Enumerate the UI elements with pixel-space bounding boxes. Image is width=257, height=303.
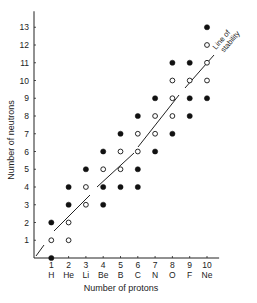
unstable-point bbox=[118, 184, 123, 189]
x-axis-label: Number of protons bbox=[84, 283, 159, 293]
stable-point bbox=[66, 238, 71, 243]
stability-annotation: Line of stability bbox=[211, 24, 242, 57]
x-tick-label: 10 bbox=[202, 260, 212, 270]
unstable-point bbox=[83, 167, 88, 172]
scatter-chart: 1H2He3Li4Be5B6C7N8O9F10Ne123456789101112… bbox=[0, 0, 257, 303]
y-tick-label: 5 bbox=[24, 164, 29, 174]
x-tick-label: 6 bbox=[135, 260, 140, 270]
y-axis-label: Number of neutrons bbox=[6, 100, 16, 180]
stable-point bbox=[153, 114, 158, 119]
y-tick-label: 10 bbox=[20, 76, 30, 86]
y-tick-label: 4 bbox=[24, 182, 29, 192]
stable-point bbox=[170, 96, 175, 101]
stable-point bbox=[49, 238, 54, 243]
x-tick-element: C bbox=[135, 270, 141, 280]
x-tick-label: 3 bbox=[84, 260, 89, 270]
unstable-point bbox=[153, 96, 158, 101]
stable-point bbox=[101, 167, 106, 172]
y-tick-label: 9 bbox=[24, 93, 29, 103]
stable-point bbox=[118, 167, 123, 172]
x-tick-element: N bbox=[152, 270, 158, 280]
unstable-point bbox=[187, 96, 192, 101]
unstable-point bbox=[204, 25, 209, 30]
y-tick-label: 13 bbox=[20, 22, 30, 32]
x-tick-element: Ne bbox=[202, 270, 213, 280]
y-tick-label: 1 bbox=[24, 235, 29, 245]
stable-point bbox=[135, 149, 140, 154]
unstable-point bbox=[135, 167, 140, 172]
unstable-point bbox=[49, 220, 54, 225]
unstable-point bbox=[170, 131, 175, 136]
y-tick-label: 6 bbox=[24, 147, 29, 157]
unstable-point bbox=[187, 60, 192, 65]
stable-point bbox=[205, 43, 210, 48]
unstable-point bbox=[49, 255, 54, 260]
unstable-point bbox=[204, 96, 209, 101]
x-tick-label: 5 bbox=[118, 260, 123, 270]
x-tick-label: 7 bbox=[153, 260, 158, 270]
unstable-point bbox=[66, 202, 71, 207]
unstable-point bbox=[135, 113, 140, 118]
stable-point bbox=[84, 185, 89, 190]
stable-point bbox=[170, 78, 175, 83]
x-tick-label: 1 bbox=[49, 260, 54, 270]
x-tick-label: 8 bbox=[170, 260, 175, 270]
x-tick-element: O bbox=[169, 270, 176, 280]
stable-point bbox=[187, 78, 192, 83]
y-tick-label: 11 bbox=[20, 58, 29, 68]
unstable-point bbox=[118, 131, 123, 136]
y-tick-label: 12 bbox=[20, 40, 30, 50]
x-tick-element: Li bbox=[83, 270, 90, 280]
x-tick-element: He bbox=[63, 270, 74, 280]
stability-line-segment bbox=[138, 95, 179, 147]
y-tick-label: 3 bbox=[24, 200, 29, 210]
x-tick-element: B bbox=[118, 270, 124, 280]
stable-point bbox=[135, 131, 140, 136]
y-tick-label: 7 bbox=[24, 129, 29, 139]
x-tick-element: F bbox=[187, 270, 192, 280]
x-tick-element: Be bbox=[98, 270, 109, 280]
x-tick-label: 9 bbox=[187, 260, 192, 270]
unstable-point bbox=[101, 184, 106, 189]
stability-line-segment bbox=[54, 195, 90, 231]
stable-point bbox=[205, 60, 210, 65]
x-tick-label: 4 bbox=[101, 260, 106, 270]
unstable-point bbox=[66, 184, 71, 189]
stable-point bbox=[66, 220, 71, 225]
line-of-stability bbox=[36, 55, 214, 256]
stable-point bbox=[205, 78, 210, 83]
unstable-point bbox=[135, 184, 140, 189]
unstable-point bbox=[101, 202, 106, 207]
stable-point bbox=[118, 149, 123, 154]
data-points bbox=[49, 25, 210, 261]
stable-point bbox=[170, 114, 175, 119]
y-tick-label: 8 bbox=[24, 111, 29, 121]
unstable-point bbox=[187, 113, 192, 118]
stable-point bbox=[84, 202, 89, 207]
unstable-point bbox=[101, 149, 106, 154]
unstable-point bbox=[153, 149, 158, 154]
x-tick-label: 2 bbox=[66, 260, 71, 270]
unstable-point bbox=[170, 60, 175, 65]
x-tick-element: H bbox=[48, 270, 54, 280]
stability-line-segment bbox=[36, 245, 44, 256]
stable-point bbox=[153, 131, 158, 136]
y-tick-label: 2 bbox=[24, 218, 29, 228]
